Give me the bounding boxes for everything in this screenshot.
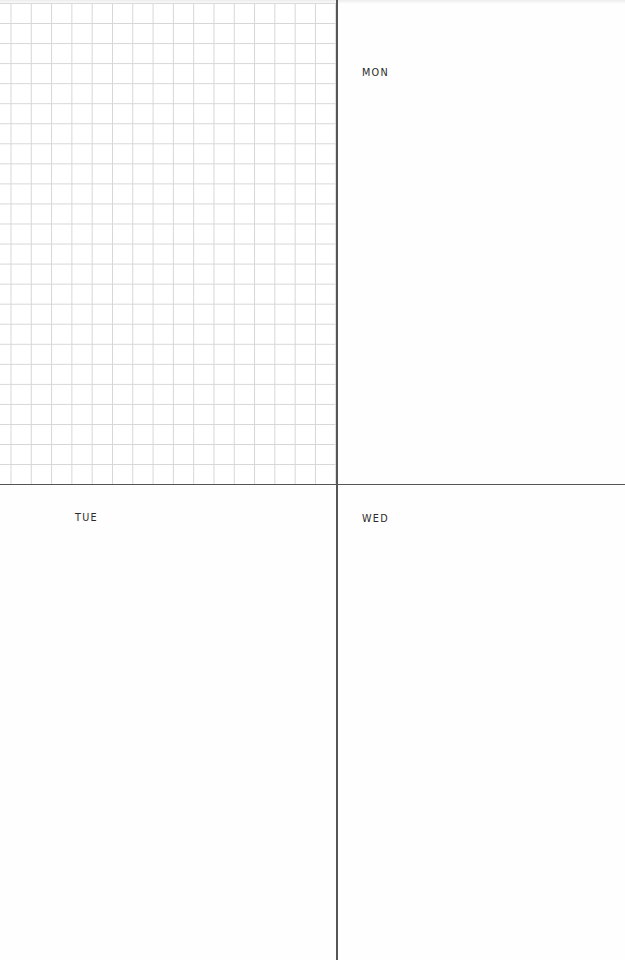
day-panel-wednesday[interactable]: [338, 486, 625, 960]
day-label-tuesday: TUE: [75, 511, 98, 523]
day-label-monday: MON: [362, 66, 389, 78]
day-panel-tuesday[interactable]: [0, 486, 336, 960]
vertical-divider: [336, 0, 338, 960]
horizontal-divider: [0, 484, 625, 485]
planner-page: MON TUE WED: [0, 0, 625, 960]
day-label-wednesday: WED: [362, 512, 389, 524]
grid-notes-panel[interactable]: [0, 3, 337, 484]
